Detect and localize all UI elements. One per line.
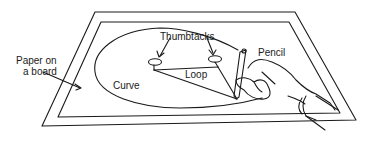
label-thumbtacks: Thumbtacks — [160, 31, 214, 42]
hand — [236, 60, 335, 130]
label-paper-line1: Paper on — [16, 55, 57, 66]
ellipse-diagram: Paper on a board Thumbtacks Pencil Loop … — [0, 0, 370, 143]
label-pencil: Pencil — [258, 47, 285, 58]
pencil — [234, 50, 246, 99]
thumbtack-left — [149, 59, 162, 65]
label-paper-line2: a board — [23, 66, 57, 77]
thumbtack-right — [209, 56, 222, 62]
label-curve: Curve — [113, 80, 140, 91]
label-loop: Loop — [185, 69, 207, 80]
